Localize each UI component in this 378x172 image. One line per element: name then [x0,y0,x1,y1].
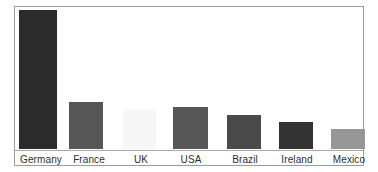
bar-usa[interactable] [173,107,208,149]
bar-rect [123,109,156,149]
bar-brazil[interactable] [227,115,261,149]
bar-ireland[interactable] [279,122,313,149]
bar-germany[interactable] [19,10,57,149]
category-label-uk: UK [119,152,163,168]
bar-rect [173,107,208,149]
axis-baseline [15,150,363,151]
category-label-germany: Germany [15,152,67,168]
category-label-ireland: Ireland [273,152,321,168]
bar-france[interactable] [69,102,103,149]
bar-chart-figure: GermanyFranceUKUSABrazilIrelandMexico [0,0,378,172]
category-label-mexico: Mexico [325,152,373,168]
category-label-brazil: Brazil [221,152,269,168]
bar-rect [19,10,57,149]
bar-uk[interactable] [123,109,156,149]
plot-area: GermanyFranceUKUSABrazilIrelandMexico [15,7,363,165]
plot-frame: GermanyFranceUKUSABrazilIrelandMexico [14,6,364,166]
bar-mexico[interactable] [331,129,365,149]
bar-rect [227,115,261,149]
bar-rect [69,102,103,149]
bar-rect [279,122,313,149]
category-label-france: France [65,152,113,168]
category-label-usa: USA [167,152,215,168]
bar-rect [331,129,365,149]
